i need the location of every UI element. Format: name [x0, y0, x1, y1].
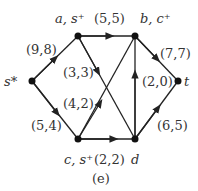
node-c — [75, 136, 82, 143]
edge-label-s-a: (9,8) — [26, 42, 57, 57]
node-label-b: b, c⁺ — [140, 11, 171, 26]
node-label-c: c, s⁺ — [64, 152, 93, 167]
edge-label-d-t: (6,5) — [157, 118, 188, 133]
node-a — [75, 33, 82, 40]
node-label-d: d — [131, 152, 139, 167]
edge-label-c-b: (4,2) — [63, 96, 94, 111]
edge-label-b-t: (7,7) — [160, 46, 191, 61]
edge-label-a-d: (3,3) — [63, 65, 94, 80]
node-s — [29, 78, 36, 85]
node-b — [132, 33, 139, 40]
node-label-s: s* — [4, 74, 18, 89]
node-t — [175, 78, 182, 85]
edge-label-d-b: (2,0) — [142, 74, 173, 89]
figure-caption: (e) — [92, 171, 110, 186]
node-label-a: a, s⁺ — [55, 11, 85, 26]
node-d — [132, 136, 139, 143]
edge-label-c-d: (2,2) — [94, 152, 125, 167]
edge-label-s-c: (5,4) — [31, 118, 62, 133]
node-label-t: t — [184, 74, 190, 89]
edge-label-a-b: (5,5) — [94, 11, 125, 26]
flow-network-diagram: s* a, s⁺ b, c⁺ t c, s⁺ d (9,8) (5,5) (7,… — [0, 0, 198, 191]
